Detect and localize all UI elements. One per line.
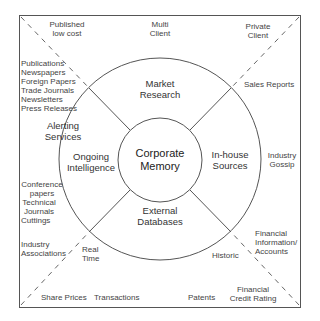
- real-time-line1: Real: [82, 245, 99, 254]
- external-databases-label: External Databases: [128, 205, 192, 227]
- industry-gossip-line2: Gossip: [265, 160, 299, 169]
- press-releases-item: Press Releases: [21, 104, 77, 113]
- market-research-label: Market Research: [128, 78, 192, 100]
- financial-info-line3: Accounts: [255, 247, 297, 256]
- alerting-line2: Services: [38, 131, 88, 142]
- newspapers-item: Newspapers: [21, 68, 77, 77]
- private-client-line1: Private: [238, 22, 278, 31]
- newsletters-item: Newsletters: [21, 95, 77, 104]
- conference-line2: papers: [21, 189, 63, 198]
- historic-label: Historic: [212, 251, 239, 260]
- external-line1: External: [128, 205, 192, 216]
- ongoing-intelligence-label: Ongoing Intelligence: [63, 151, 119, 173]
- center-line2: Memory: [128, 160, 192, 173]
- industry-associations-label: Industry Associations: [21, 240, 66, 258]
- in-house-line2: Sources: [203, 160, 257, 171]
- technical-journals-label: Technical Journals: [21, 198, 57, 216]
- conference-line1: Conference: [21, 180, 63, 189]
- patents-label: Patents: [188, 293, 215, 302]
- cuttings-label: Cuttings: [21, 216, 50, 225]
- real-time-line2: Time: [82, 254, 99, 263]
- industry-gossip-label: Industry Gossip: [265, 151, 299, 169]
- technical-line1: Technical: [21, 198, 57, 207]
- private-client-label: Private Client: [238, 22, 278, 40]
- market-research-line1: Market: [128, 78, 192, 89]
- trade-journals-item: Trade Journals: [21, 86, 77, 95]
- industry-assoc-line1: Industry: [21, 240, 66, 249]
- center-line1: Corporate: [128, 147, 192, 160]
- technical-line2: Journals: [21, 207, 57, 216]
- publications-item: Publications: [21, 59, 77, 68]
- private-client-line2: Client: [238, 31, 278, 40]
- in-house-line1: In-house: [203, 149, 257, 160]
- alerting-services-label: Alerting Services: [38, 120, 88, 142]
- credit-rating-line2: Credit Rating: [229, 294, 277, 303]
- conference-papers-label: Conference papers: [21, 180, 63, 198]
- financial-info-line1: Financial: [255, 229, 297, 238]
- sales-reports-label: Sales Reports: [244, 80, 294, 89]
- foreign-papers-item: Foreign Papers: [21, 77, 77, 86]
- alerting-line1: Alerting: [38, 120, 88, 131]
- industry-assoc-line2: Associations: [21, 249, 66, 258]
- financial-info-line2: Information/: [255, 238, 297, 247]
- ongoing-line2: Intelligence: [63, 162, 119, 173]
- ongoing-line1: Ongoing: [63, 151, 119, 162]
- financial-information-label: Financial Information/ Accounts: [255, 229, 297, 256]
- financial-credit-rating-label: Financial Credit Rating: [229, 285, 277, 303]
- multi-client-label: Multi Client: [140, 20, 180, 38]
- multi-client-line2: Client: [140, 29, 180, 38]
- published-line2: low cost: [44, 29, 90, 38]
- transactions-label: Transactions: [94, 293, 140, 302]
- industry-gossip-line1: Industry: [265, 151, 299, 160]
- publications-list: Publications Newspapers Foreign Papers T…: [21, 59, 77, 113]
- in-house-sources-label: In-house Sources: [203, 149, 257, 171]
- credit-rating-line1: Financial: [229, 285, 277, 294]
- market-research-line2: Research: [128, 89, 192, 100]
- external-line2: Databases: [128, 216, 192, 227]
- published-low-cost-label: Published low cost: [44, 20, 90, 38]
- share-prices-label: Share Prices: [41, 293, 87, 302]
- published-line1: Published: [44, 20, 90, 29]
- multi-client-line1: Multi: [140, 20, 180, 29]
- real-time-label: Real Time: [82, 245, 99, 263]
- center-label: Corporate Memory: [128, 147, 192, 173]
